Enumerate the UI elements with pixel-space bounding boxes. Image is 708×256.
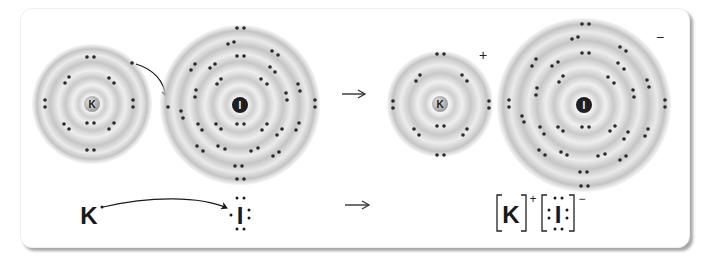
potassium-nucleus-label: K	[88, 99, 96, 110]
potassium-atom: K	[32, 44, 152, 164]
lewis-potassium-ion-symbol: K	[502, 201, 520, 228]
lewis-iodide-ion-charge: −	[578, 192, 585, 206]
lewis-products: K + I −	[497, 192, 586, 231]
bracket-right-k	[521, 195, 526, 231]
bracket-right-i	[569, 195, 574, 231]
iodine-nucleus-label: I	[239, 100, 242, 111]
potassium-ion: K +	[387, 47, 493, 157]
iodide-ion: I	[497, 18, 671, 192]
lewis-reactants: K I	[80, 197, 250, 231]
ionic-bond-diagram: K I	[0, 0, 708, 256]
lewis-potassium-ion-charge: +	[529, 192, 536, 206]
lewis-iodide-ion-symbol: I	[555, 201, 562, 228]
iodide-ion-charge: −	[656, 29, 664, 45]
bracket-left-k	[497, 195, 502, 231]
iodide-ion-nucleus-label: I	[583, 100, 586, 111]
potassium-ion-charge: +	[479, 47, 487, 63]
lewis-transfer-arrow	[103, 199, 227, 208]
iodine-atom: I	[160, 25, 320, 185]
bracket-left-i	[542, 195, 547, 231]
lewis-potassium-symbol: K	[80, 202, 98, 229]
lewis-iodine-symbol: I	[237, 202, 244, 229]
potassium-ion-nucleus-label: K	[436, 99, 444, 110]
